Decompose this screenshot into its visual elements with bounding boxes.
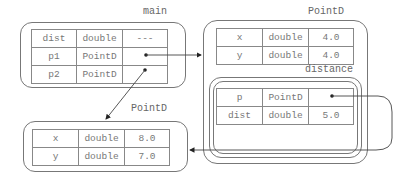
reference-arrows	[0, 0, 407, 179]
arrow-p2-to-pointd	[106, 68, 147, 119]
arrow-p1-to-pointd	[144, 53, 201, 57]
arrow-distance-p-to-pointd	[190, 94, 392, 150]
